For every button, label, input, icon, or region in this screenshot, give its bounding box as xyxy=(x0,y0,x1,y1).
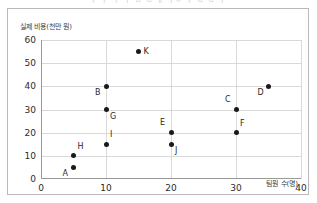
x-tick-label: 0 xyxy=(38,184,44,193)
data-point-label-e: E xyxy=(160,119,165,127)
y-tick-label: 10 xyxy=(25,151,36,160)
data-point-label-h: H xyxy=(78,143,84,151)
data-point-f xyxy=(234,130,239,135)
data-point-k xyxy=(136,49,141,54)
x-tick-label: 40 xyxy=(295,184,306,193)
y-tick-label: 40 xyxy=(25,82,36,91)
data-point-e xyxy=(169,130,174,135)
data-point-label-c: C xyxy=(225,96,231,104)
x-tick-label: 10 xyxy=(100,184,111,193)
plot-area: 0102030405060 010203040 ABCDEFGHIJK xyxy=(41,40,301,179)
gridline-vertical xyxy=(171,40,172,179)
data-point-label-b: B xyxy=(95,89,101,97)
data-point-g xyxy=(104,107,109,112)
x-axis-line xyxy=(41,178,301,179)
y-tick-label: 50 xyxy=(25,59,36,68)
data-point-label-f: F xyxy=(240,120,245,128)
y-axis-title: 실제 비용(천만 원) xyxy=(20,23,72,32)
gridline-vertical xyxy=(301,40,302,179)
data-point-label-i: I xyxy=(110,131,112,139)
scatter-chart-figure: ㅣ ㅣ ㅣ ㅣ ㅂ ㅂ ㅐ ㅣㅇ ㅣ ㅂ ㅂ ㅣ 실제 비용(천만 원) 팀원 … xyxy=(0,0,317,203)
data-point-b xyxy=(104,84,109,89)
data-point-label-k: K xyxy=(144,48,149,56)
data-point-label-a: A xyxy=(63,170,68,178)
data-point-label-d: D xyxy=(258,89,264,97)
data-point-d xyxy=(266,84,271,89)
data-point-c xyxy=(234,107,239,112)
data-point-a xyxy=(71,165,76,170)
y-axis-line xyxy=(41,40,42,179)
x-tick-label: 30 xyxy=(230,184,241,193)
chart-frame: 실제 비용(천만 원) 팀원 수(명) 0102030405060 010203… xyxy=(7,8,309,195)
y-tick-label: 20 xyxy=(25,128,36,137)
clipped-top-text: ㅣ ㅣ ㅣ ㅣ ㅂ ㅂ ㅐ ㅣㅇ ㅣ ㅂ ㅂ ㅣ xyxy=(0,0,317,3)
x-axis-title: 팀원 수(명) xyxy=(266,180,298,189)
data-point-label-j: J xyxy=(175,147,177,155)
x-tick-label: 20 xyxy=(165,184,176,193)
data-point-j xyxy=(169,142,174,147)
y-tick-label: 0 xyxy=(30,175,36,184)
y-tick-label: 30 xyxy=(25,105,36,114)
data-point-h xyxy=(71,153,76,158)
data-point-label-g: G xyxy=(110,113,116,121)
data-point-i xyxy=(104,142,109,147)
y-tick-label: 60 xyxy=(25,36,36,45)
